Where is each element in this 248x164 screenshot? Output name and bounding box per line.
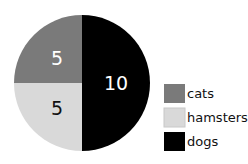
legend-swatch-cats	[164, 84, 185, 103]
legend-swatch-dogs	[164, 132, 185, 151]
legend-swatch-hamsters	[164, 108, 185, 127]
slice-value-cats: 5	[51, 47, 63, 69]
pie-chart: 5510 catshamstersdogs	[0, 0, 248, 164]
slice-value-hamsters: 5	[51, 97, 63, 119]
pie-slices	[14, 15, 150, 151]
slice-value-dogs: 10	[104, 72, 128, 94]
legend-label-dogs: dogs	[187, 134, 218, 149]
legend: catshamstersdogs	[164, 84, 248, 151]
pie-slice-hamsters	[14, 83, 82, 151]
legend-label-cats: cats	[187, 86, 214, 101]
pie-slice-cats	[14, 15, 82, 83]
legend-label-hamsters: hamsters	[187, 110, 248, 125]
